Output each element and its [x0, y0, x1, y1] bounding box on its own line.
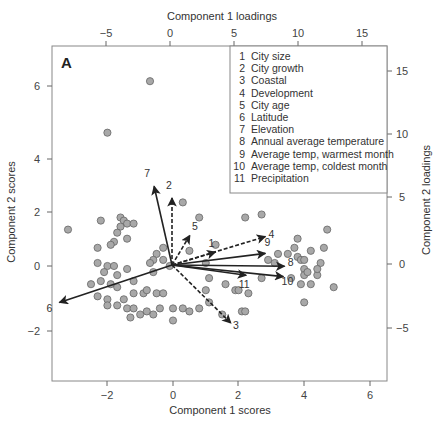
score-point	[114, 302, 121, 309]
score-point	[242, 308, 249, 315]
right-tick-label: 10	[396, 128, 408, 140]
legend-label: City age	[251, 99, 290, 111]
left-axis: 6 4 2 0 −2 Component 2 scores	[5, 80, 52, 337]
score-point	[94, 244, 101, 251]
score-point	[143, 308, 150, 315]
arrow-label: 3	[233, 319, 239, 331]
score-point	[130, 305, 137, 312]
arrow-label: 7	[144, 167, 150, 179]
score-point	[186, 308, 193, 315]
score-point	[301, 299, 308, 306]
score-point	[130, 220, 137, 227]
score-point	[307, 281, 314, 288]
score-point	[104, 129, 111, 136]
score-point	[330, 284, 337, 291]
score-point	[146, 78, 153, 85]
top-axis: −5 0 5 10 15 Component 1 loadings	[100, 10, 368, 46]
score-point	[120, 296, 127, 303]
score-point	[143, 287, 150, 294]
legend-label: Latitude	[251, 111, 289, 123]
legend-label: Average temp, warmest month	[251, 148, 394, 160]
score-point	[324, 226, 331, 233]
top-tick-label: 15	[356, 27, 368, 39]
right-tick-label: 15	[396, 65, 408, 77]
score-point	[160, 244, 167, 251]
score-point	[94, 259, 101, 266]
arrow-label: 11	[239, 278, 250, 290]
score-point	[304, 269, 311, 276]
score-point	[307, 247, 314, 254]
legend: 1City size2City growth3Coastal4Developme…	[230, 46, 394, 193]
score-point	[101, 269, 108, 276]
arrow-label: 1	[209, 237, 215, 249]
top-tick-label: 0	[167, 27, 173, 39]
x-axis-title: Component 1 scores	[169, 404, 271, 416]
loading-arrow	[172, 265, 231, 323]
score-point	[160, 290, 167, 297]
legend-number: 9	[239, 148, 245, 160]
score-point	[114, 229, 121, 236]
score-point	[258, 211, 265, 218]
y-tick-label: 6	[34, 80, 40, 92]
top-tick-label: 5	[231, 27, 237, 39]
legend-number: 7	[239, 123, 245, 135]
legend-label: Annual average temperature	[251, 135, 384, 147]
x-tick-label: 2	[235, 389, 241, 401]
score-point	[156, 305, 163, 312]
arrow-label: 8	[288, 256, 294, 268]
score-point	[314, 265, 321, 272]
score-point	[222, 281, 229, 288]
y-tick-label: 2	[34, 206, 40, 218]
legend-number: 2	[239, 62, 245, 74]
legend-label: City growth	[251, 62, 304, 74]
y-tick-label: 4	[34, 153, 40, 165]
score-point	[127, 314, 134, 321]
legend-number: 3	[239, 74, 245, 86]
legend-label: Elevation	[251, 123, 294, 135]
score-point	[301, 256, 308, 263]
score-point	[179, 199, 186, 206]
score-point	[124, 235, 131, 242]
biplot-chart: 1234567891011 −2 0 2 4 6 Component 1 sco…	[0, 0, 438, 425]
score-point	[87, 281, 94, 288]
legend-number: 6	[239, 111, 245, 123]
score-point	[160, 256, 167, 263]
x-tick-label: 6	[367, 389, 373, 401]
y-axis-title: Component 2 scores	[5, 161, 17, 263]
score-point	[196, 305, 203, 312]
legend-label: Coastal	[251, 74, 287, 86]
legend-number: 11	[234, 172, 245, 184]
right-tick-label: 5	[399, 191, 405, 203]
score-point	[124, 265, 131, 272]
loading-arrow	[172, 253, 265, 265]
score-point	[320, 244, 327, 251]
score-point	[110, 262, 117, 269]
right-axis-title: Component 2 loadings	[420, 144, 432, 255]
top-tick-label: 10	[292, 27, 304, 39]
score-point	[265, 256, 272, 263]
score-point	[297, 281, 304, 288]
right-tick-label: −5	[396, 322, 409, 334]
score-point	[245, 290, 252, 297]
score-point	[153, 290, 160, 297]
legend-label: Development	[251, 87, 313, 99]
score-point	[64, 226, 71, 233]
score-point	[206, 275, 213, 282]
arrow-label: 5	[192, 220, 198, 232]
legend-number: 1	[239, 50, 245, 62]
score-point	[169, 317, 176, 324]
top-tick-label: −5	[100, 27, 113, 39]
score-point	[274, 250, 281, 257]
score-point	[104, 302, 111, 309]
legend-label: Average temp, coldest month	[251, 160, 388, 172]
y-tick-label: −2	[27, 325, 40, 337]
score-point	[291, 244, 298, 251]
legend-number: 10	[233, 160, 245, 172]
score-point	[202, 287, 209, 294]
score-point	[169, 305, 176, 312]
top-axis-title: Component 1 loadings	[167, 10, 278, 22]
x-tick-label: −2	[101, 389, 114, 401]
score-point	[137, 311, 144, 318]
panel-label: A	[61, 54, 72, 71]
legend-number: 4	[239, 87, 245, 99]
